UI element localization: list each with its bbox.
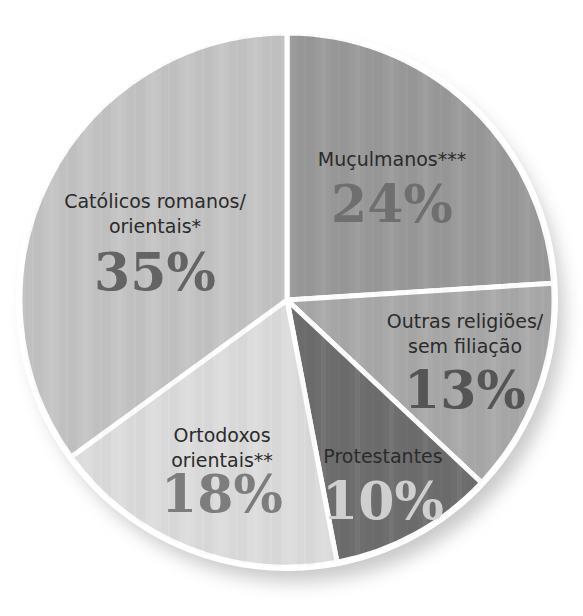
slice-label: Outras religiões/ — [387, 310, 544, 332]
slice-percentage: 13% — [404, 359, 526, 420]
slice-label: Católicos romanos/ — [64, 190, 246, 212]
slice-label: sem filiação — [408, 335, 522, 357]
slice-label: orientais* — [109, 215, 201, 237]
slice-label: Ortodoxos — [173, 424, 270, 446]
slice-label: Protestantes — [323, 445, 442, 467]
slice-percentage: 24% — [331, 173, 453, 234]
slice-percentage: 18% — [161, 463, 283, 524]
slice-label: Muçulmanos*** — [318, 148, 466, 170]
slice-percentage: 35% — [94, 241, 216, 302]
pie-chart: Muçulmanos***24%Outras religiões/sem fil… — [0, 0, 583, 616]
slice-percentage: 10% — [322, 470, 444, 531]
